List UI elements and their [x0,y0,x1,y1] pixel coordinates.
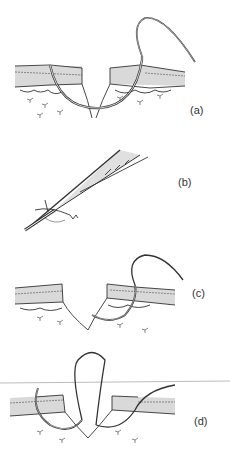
panel-b-illustration [25,150,148,230]
panel-label-a: (a) [190,104,203,116]
panel-c-illustration [15,255,183,333]
suture-diagram [0,0,230,469]
panel-d-illustration [10,353,175,444]
panel-label-d: (d) [194,415,207,427]
scan-line [0,381,230,383]
panel-label-b: (b) [178,176,191,188]
panel-label-c: (c) [192,287,205,299]
panel-a-illustration [15,18,195,118]
